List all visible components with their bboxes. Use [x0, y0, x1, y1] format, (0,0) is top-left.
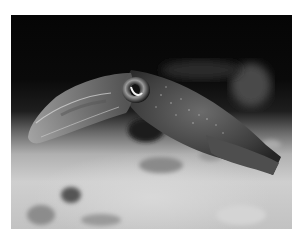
- squid-illustration: [11, 15, 292, 229]
- squid-photo: [11, 15, 292, 229]
